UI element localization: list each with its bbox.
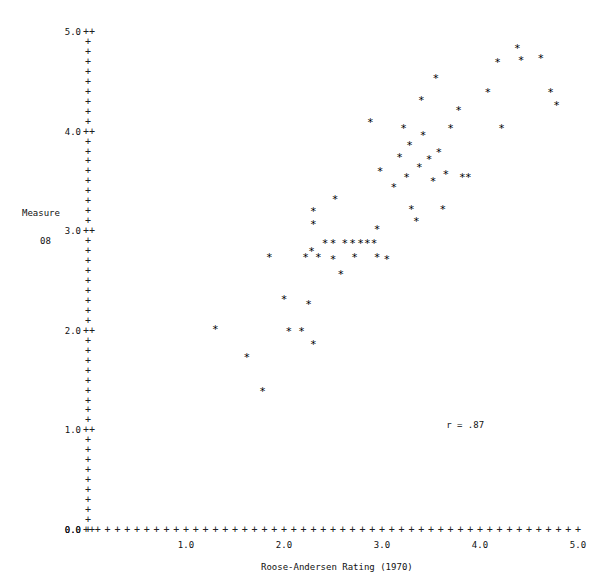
y-axis-tick: +	[83, 415, 93, 425]
data-point: *	[376, 166, 384, 177]
data-point: *	[464, 172, 472, 183]
x-axis-tick: +	[465, 525, 475, 535]
x-axis-tick: +	[112, 525, 122, 535]
y-axis-tick: +	[83, 107, 93, 117]
x-axis-tick: +	[504, 525, 514, 535]
data-point: *	[314, 252, 322, 263]
data-point: *	[373, 224, 381, 235]
data-point: *	[405, 140, 413, 151]
data-point: *	[341, 238, 349, 249]
x-axis-tick: +	[563, 525, 573, 535]
y-axis-tick: +	[83, 316, 93, 326]
y-axis-tick: +	[83, 256, 93, 266]
y-axis-tick: +	[83, 396, 93, 406]
y-axis-tick: +	[83, 475, 93, 485]
x-axis-tick: +	[436, 525, 446, 535]
y-axis-tick: +	[83, 147, 93, 157]
y-axis-tick: +	[83, 216, 93, 226]
y-axis-tick: +	[83, 346, 93, 356]
x-axis-tick: +	[240, 525, 250, 535]
data-point: *	[517, 55, 525, 66]
x-axis-tick: +	[455, 525, 465, 535]
data-point: *	[383, 254, 391, 265]
x-axis-tick: +	[406, 525, 416, 535]
y-axis-tick: +	[83, 156, 93, 166]
data-point: *	[302, 252, 310, 263]
data-point: *	[285, 326, 293, 337]
y-axis-tick: +	[83, 286, 93, 296]
y-axis-tick: +	[83, 455, 93, 465]
x-axis-tick: +	[524, 525, 534, 535]
x-axis-tick: +	[210, 525, 220, 535]
x-axis-tick: +	[103, 525, 113, 535]
x-axis-tick: +	[308, 525, 318, 535]
x-axis-tick: +	[93, 525, 103, 535]
x-axis-tick: +	[201, 525, 211, 535]
y-axis-tick: +	[83, 266, 93, 276]
x-axis-tick: +	[553, 525, 563, 535]
x-axis-tick: +	[152, 525, 162, 535]
y-axis-tick: ++	[83, 425, 99, 435]
x-axis-tick: +	[534, 525, 544, 535]
y-axis-tick: +	[83, 246, 93, 256]
data-point: *	[349, 238, 357, 249]
data-point: *	[351, 252, 359, 263]
x-axis-tick-label: 1.0	[173, 540, 199, 550]
data-point: *	[537, 53, 545, 64]
data-point: *	[513, 43, 521, 54]
y-axis-tick: ++	[83, 127, 99, 137]
data-point: *	[400, 123, 408, 134]
y-axis-tick-label: 5.0	[55, 27, 81, 37]
x-axis-tick: +	[220, 525, 230, 535]
y-axis-tick: +	[83, 77, 93, 87]
y-axis-tick: +	[83, 67, 93, 77]
data-point: *	[429, 176, 437, 187]
y-axis-tick: +	[83, 206, 93, 216]
data-point: *	[454, 105, 462, 116]
data-point: *	[407, 204, 415, 215]
y-axis-tick: ++	[83, 226, 99, 236]
y-axis-tick: +	[83, 57, 93, 67]
x-axis-tick: +	[426, 525, 436, 535]
data-point: *	[415, 162, 423, 173]
correlation-annotation: r = .87	[446, 420, 484, 431]
x-axis-tick: +	[446, 525, 456, 535]
data-point: *	[258, 386, 266, 397]
data-point: *	[425, 154, 433, 165]
y-axis-tick: +	[83, 196, 93, 206]
x-axis-tick: +	[132, 525, 142, 535]
y-axis-tick: +	[83, 176, 93, 186]
x-axis-tick: +	[122, 525, 132, 535]
x-axis-tick-label: 5.0	[565, 540, 591, 550]
x-axis-tick: +	[573, 525, 583, 535]
y-axis-tick: +	[83, 505, 93, 515]
x-axis-tick: +	[250, 525, 260, 535]
x-axis-tick: +	[348, 525, 358, 535]
y-axis-tick: +	[83, 276, 93, 286]
data-point: *	[432, 73, 440, 84]
x-axis-tick: +	[328, 525, 338, 535]
y-axis-tick-label: 4.0	[55, 127, 81, 137]
y-axis-tick: +	[83, 405, 93, 415]
y-axis-tick: +	[83, 465, 93, 475]
data-point: *	[552, 100, 560, 111]
y-axis-tick: +	[83, 296, 93, 306]
data-point: *	[280, 294, 288, 305]
data-point: *	[442, 169, 450, 180]
y-axis-title-line1: Measure	[22, 208, 60, 218]
y-axis-tick: +	[83, 356, 93, 366]
scatter-plot-figure: ++++++++++++++++++++++++++++++++++++++++…	[0, 0, 605, 578]
x-axis-tick: +	[514, 525, 524, 535]
y-axis-tick: +	[83, 495, 93, 505]
x-axis-tick: +	[279, 525, 289, 535]
y-axis-tick: +	[83, 336, 93, 346]
x-axis-tick: +	[289, 525, 299, 535]
y-axis-tick: +	[83, 47, 93, 57]
y-axis-tick: +	[83, 186, 93, 196]
data-point: *	[403, 172, 411, 183]
x-axis-tick: +	[191, 525, 201, 535]
x-axis-tick: +	[171, 525, 181, 535]
data-point: *	[309, 219, 317, 230]
y-axis-tick: +	[83, 306, 93, 316]
data-point: *	[498, 123, 506, 134]
